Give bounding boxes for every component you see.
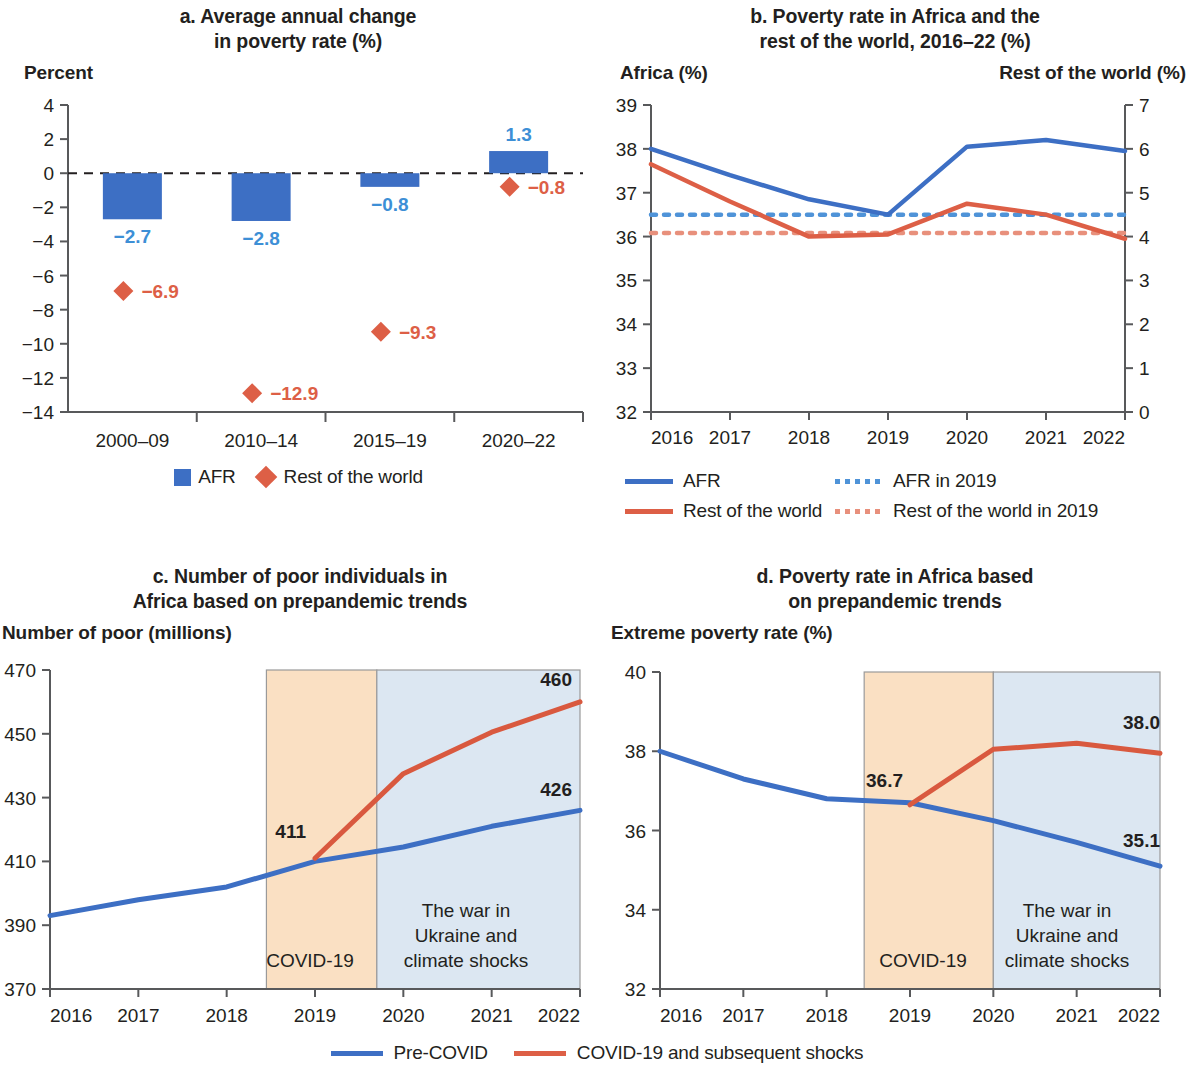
svg-text:2018: 2018 [788, 427, 830, 448]
svg-text:3: 3 [1139, 270, 1150, 291]
svg-text:32: 32 [625, 979, 646, 1000]
panel-a-title-line2: in poverty rate (%) [28, 29, 568, 54]
svg-text:36: 36 [625, 821, 646, 842]
figure-root: a. Average annual change in poverty rate… [0, 0, 1194, 1076]
panel-a-diamond-labels: −6.9−12.9−9.3−0.8 [141, 177, 565, 404]
svg-text:2022: 2022 [1083, 427, 1125, 448]
panel-c-label-460: 460 [540, 669, 572, 690]
panel-a-title-line1: a. Average annual change [28, 4, 568, 29]
panel-a-title: a. Average annual change in poverty rate… [28, 0, 568, 54]
panel-b-right-axis-label: Rest of the world (%) [999, 62, 1186, 84]
panel-a-x-ticks [197, 412, 583, 422]
legend-item-row-2019: Rest of the world in 2019 [835, 500, 1098, 522]
panel-d-title-line1: d. Poverty rate in Africa based [615, 564, 1175, 589]
svg-text:Ukraine and: Ukraine and [1016, 925, 1118, 946]
panel-a-bar-labels: −2.7−2.8−0.81.3 [114, 124, 532, 249]
legend-label-afr-2019: AFR in 2019 [893, 470, 996, 492]
pre-covid-line-icon [331, 1051, 383, 1056]
panel-c-plot: 470450430410390370 411 460 426 COVID-19 … [0, 656, 597, 1026]
svg-text:−6.9: −6.9 [141, 281, 179, 302]
svg-text:climate shocks: climate shocks [404, 950, 529, 971]
panel-b-plot: 3938373635343332 76543210 20162017201820… [597, 92, 1194, 452]
svg-text:−9.3: −9.3 [399, 322, 437, 343]
svg-text:2018: 2018 [206, 1005, 248, 1026]
panel-b-title-line1: b. Poverty rate in Africa and the [615, 4, 1175, 29]
svg-text:7: 7 [1139, 95, 1150, 116]
legend-item-afr: AFR [174, 466, 235, 488]
legend-item-pre-covid: Pre-COVID [331, 1042, 488, 1064]
svg-text:The war in: The war in [1023, 900, 1112, 921]
svg-text:32: 32 [616, 402, 637, 423]
svg-text:2021: 2021 [471, 1005, 513, 1026]
legend-label-rest-of-world: Rest of the world [683, 500, 822, 522]
panel-c-covid-band-label: COVID-19 [266, 950, 354, 971]
panel-a-y-axis-label: Percent [24, 62, 93, 84]
svg-text:2021: 2021 [1025, 427, 1067, 448]
afr-line-icon [625, 479, 673, 484]
svg-text:−2.8: −2.8 [242, 228, 280, 249]
svg-text:2019: 2019 [889, 1005, 931, 1026]
svg-text:−8: −8 [32, 300, 54, 321]
svg-text:2016: 2016 [660, 1005, 702, 1026]
legend-label-afr: AFR [198, 466, 235, 488]
svg-text:2016: 2016 [651, 427, 693, 448]
legend-label-afr: AFR [683, 470, 720, 492]
svg-text:−0.8: −0.8 [371, 194, 409, 215]
svg-text:2020: 2020 [972, 1005, 1014, 1026]
panel-d: d. Poverty rate in Africa based on prepa… [597, 560, 1194, 1030]
svg-text:1: 1 [1139, 358, 1150, 379]
svg-text:2022: 2022 [538, 1005, 580, 1026]
svg-text:33: 33 [616, 358, 637, 379]
svg-text:4: 4 [43, 95, 54, 116]
svg-text:38: 38 [625, 741, 646, 762]
svg-text:2020: 2020 [946, 427, 988, 448]
rest-of-world-2019-dotted-icon [835, 509, 883, 514]
svg-text:1.3: 1.3 [505, 124, 531, 145]
svg-text:2022: 2022 [1118, 1005, 1160, 1026]
rest-of-world-diamond-icon [254, 466, 277, 489]
panel-b-left-ticks: 3938373635343332 [616, 95, 651, 423]
panel-c-title-line2: Africa based on prepandemic trends [20, 589, 580, 614]
svg-text:2018: 2018 [806, 1005, 848, 1026]
diamond-2020-22 [500, 177, 520, 197]
svg-text:35: 35 [616, 270, 637, 291]
svg-text:38: 38 [616, 139, 637, 160]
panel-a-legend: AFR Rest of the world [0, 466, 597, 488]
svg-text:−12: −12 [22, 368, 54, 389]
panel-d-plot: 4038363432 36.7 38.0 35.1 COVID-19 The w… [597, 656, 1194, 1026]
panel-d-covid-band-label: COVID-19 [879, 950, 967, 971]
panel-c-x-labels: 2016201720182019202020212022 [50, 1005, 580, 1026]
panel-b-title: b. Poverty rate in Africa and the rest o… [615, 0, 1175, 54]
svg-text:0: 0 [43, 163, 54, 184]
panel-d-title-line2: on prepandemic trends [615, 589, 1175, 614]
svg-text:39: 39 [616, 95, 637, 116]
svg-text:2010–14: 2010–14 [224, 430, 298, 451]
panel-b-afr-line [651, 140, 1125, 215]
svg-text:370: 370 [4, 979, 36, 1000]
svg-text:The war in: The war in [422, 900, 511, 921]
svg-text:−12.9: −12.9 [270, 383, 318, 404]
svg-text:−4: −4 [32, 231, 54, 252]
svg-text:2020: 2020 [382, 1005, 424, 1026]
panel-a-y-ticks: 420−2−4−6−8−10−12−14 [22, 95, 68, 423]
afr-2019-dotted-icon [835, 479, 883, 484]
panel-d-title: d. Poverty rate in Africa based on prepa… [615, 560, 1175, 614]
svg-text:2017: 2017 [709, 427, 751, 448]
svg-text:climate shocks: climate shocks [1005, 950, 1130, 971]
bar-2010-14 [232, 173, 291, 221]
svg-text:34: 34 [616, 314, 638, 335]
svg-text:0: 0 [1139, 402, 1150, 423]
svg-text:450: 450 [4, 724, 36, 745]
panel-d-y-ticks: 4038363432 [625, 662, 660, 1000]
svg-text:4: 4 [1139, 227, 1150, 248]
covid-shocks-line-icon [514, 1051, 566, 1056]
panel-d-y-axis-label: Extreme poverty rate (%) [611, 622, 832, 644]
svg-text:2015–19: 2015–19 [353, 430, 427, 451]
svg-text:390: 390 [4, 915, 36, 936]
afr-square-icon [174, 469, 191, 486]
panel-c-label-411: 411 [275, 821, 306, 842]
panel-d-covid-band [864, 672, 993, 989]
legend-label-rest-of-world: Rest of the world [284, 466, 423, 488]
legend-item-afr-solid: AFR [619, 470, 835, 492]
panel-b-x-labels: 2016201720182019202020212022 [651, 427, 1125, 448]
